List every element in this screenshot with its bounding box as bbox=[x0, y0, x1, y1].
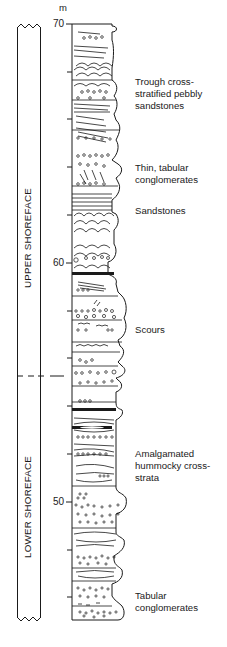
zone-label-upper-shoreface: UPPER SHOREFACE bbox=[22, 188, 33, 288]
annotation-tabular-conglomerates: Tabular conglomerates bbox=[135, 590, 198, 614]
annotation-scours: Scours bbox=[135, 324, 165, 336]
tick-label-60: 60 bbox=[44, 258, 64, 268]
annotation-sandstones: Sandstones bbox=[135, 205, 186, 217]
annotation-trough-cross-stratified: Trough cross- stratified pebbly sandston… bbox=[135, 76, 202, 112]
tick-label-70: 70 bbox=[44, 19, 64, 29]
tick-label-50: 50 bbox=[44, 497, 64, 507]
annotation-thin-tabular-conglomerates: Thin, tabular conglomerates bbox=[135, 162, 198, 186]
column-outline bbox=[72, 24, 126, 620]
annotation-amalgamated-hcs: Amalgamated hummocky cross- strata bbox=[135, 448, 210, 484]
zone-label-lower-shoreface: LOWER SHOREFACE bbox=[22, 456, 33, 558]
depth-unit-label: m bbox=[59, 2, 67, 13]
axis-ticks bbox=[66, 24, 72, 597]
